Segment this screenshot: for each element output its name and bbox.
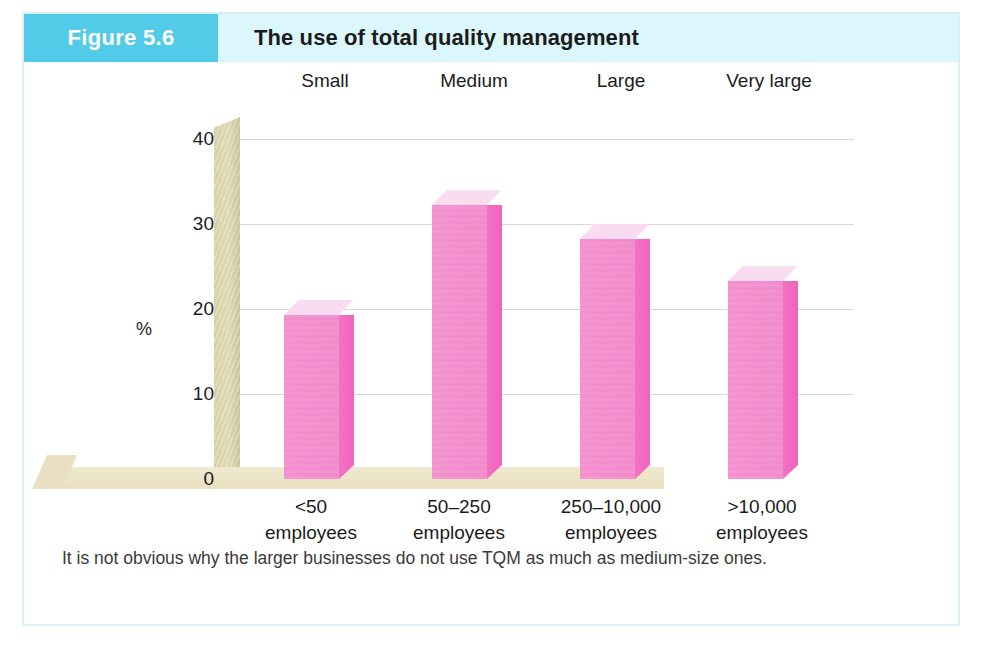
category-label-50-250-line2: employees [394, 520, 524, 546]
category-top-label-small: Small [260, 70, 390, 92]
bar-large-front [580, 239, 635, 479]
category-top-label-large: Large [556, 70, 686, 92]
y-tick-20: 20 [170, 298, 214, 320]
figure-header: Figure 5.6 The use of total quality mana… [24, 14, 958, 62]
category-label-50-250: 50–250 employees [394, 494, 524, 546]
figure-box: Figure 5.6 The use of total quality mana… [22, 12, 960, 626]
y-axis: 40 30 20 10 0 [154, 62, 214, 532]
figure-number-label: Figure 5.6 [68, 25, 175, 51]
chart-floor [46, 467, 664, 489]
y-tick-40: 40 [170, 128, 214, 150]
category-label-under-50: <50 employees [246, 494, 376, 546]
gridline-40 [240, 139, 854, 140]
category-label-under-50-line1: <50 [246, 494, 376, 520]
category-top-label-very-large: Very large [696, 70, 842, 92]
y-tick-30: 30 [170, 213, 214, 235]
chart-left-wall [214, 117, 240, 490]
y-axis-label: % [136, 319, 152, 340]
gridline-30 [240, 224, 854, 225]
bar-large-side [635, 239, 650, 479]
category-label-under-50-line2: employees [246, 520, 376, 546]
bar-medium-side [487, 205, 502, 479]
category-label-250-10000: 250–10,000 employees [536, 494, 686, 546]
bar-chart: 40 30 20 10 0 % Small Medium Large Very … [24, 62, 962, 532]
category-label-over-10000-line1: >10,000 [692, 494, 832, 520]
bar-small-side [339, 315, 354, 479]
figure-number-block: Figure 5.6 [24, 14, 218, 62]
category-top-label-medium: Medium [404, 70, 544, 92]
category-label-over-10000-line2: employees [692, 520, 832, 546]
category-label-over-10000: >10,000 employees [692, 494, 832, 546]
bar-small [284, 300, 339, 479]
y-tick-10: 10 [170, 383, 214, 405]
bar-medium [432, 190, 487, 479]
category-label-50-250-line1: 50–250 [394, 494, 524, 520]
figure-title: The use of total quality management [218, 14, 639, 62]
bar-very-large-side [783, 281, 798, 479]
bar-very-large-front [728, 281, 783, 479]
category-label-250-10000-line1: 250–10,000 [536, 494, 686, 520]
category-label-250-10000-line2: employees [536, 520, 686, 546]
y-tick-0: 0 [170, 468, 214, 490]
bar-very-large [728, 266, 783, 479]
bar-large [580, 224, 635, 479]
figure-caption: It is not obvious why the larger busines… [62, 544, 920, 573]
bar-small-front [284, 315, 339, 479]
bar-medium-front [432, 205, 487, 479]
